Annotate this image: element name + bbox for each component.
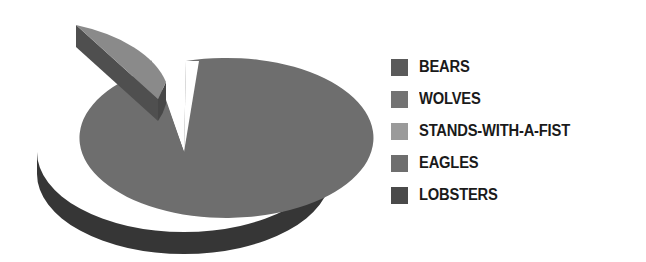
- legend-swatch-stands-with-a-fist: [391, 123, 408, 140]
- chart-legend: BEARS WOLVES STANDS-WITH-A-FIST EAGLES L…: [391, 52, 641, 212]
- legend-label-eagles: EAGLES: [419, 155, 478, 171]
- legend-label-stands-with-a-fist: STANDS-WITH-A-FIST: [419, 123, 570, 139]
- legend-item-lobsters[interactable]: LOBSTERS: [391, 180, 641, 210]
- legend-label-wolves: WOLVES: [419, 91, 481, 107]
- pie-chart-svg[interactable]: [0, 0, 380, 262]
- legend-swatch-eagles: [391, 155, 408, 172]
- legend-swatch-lobsters: [391, 187, 408, 204]
- pie-chart[interactable]: [0, 0, 380, 262]
- legend-label-lobsters: LOBSTERS: [419, 187, 498, 203]
- legend-swatch-bears: [391, 59, 408, 76]
- legend-item-bears[interactable]: BEARS: [391, 52, 641, 82]
- legend-item-stands-with-a-fist[interactable]: STANDS-WITH-A-FIST: [391, 116, 641, 146]
- legend-item-eagles[interactable]: EAGLES: [391, 148, 641, 178]
- pie-chart-page: BEARS WOLVES STANDS-WITH-A-FIST EAGLES L…: [0, 0, 646, 262]
- legend-item-wolves[interactable]: WOLVES: [391, 84, 641, 114]
- legend-swatch-wolves: [391, 91, 408, 108]
- legend-label-bears: BEARS: [419, 59, 470, 75]
